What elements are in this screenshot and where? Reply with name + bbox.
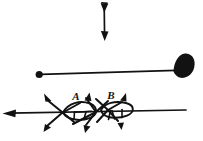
label-a: A [71, 90, 79, 102]
leaf-a-vein-2 [75, 111, 92, 112]
figure-root: A B [0, 0, 203, 141]
label-b: B [106, 89, 114, 101]
line-art-diagram: A B [0, 0, 203, 141]
filled-dot-terminus [36, 71, 43, 78]
